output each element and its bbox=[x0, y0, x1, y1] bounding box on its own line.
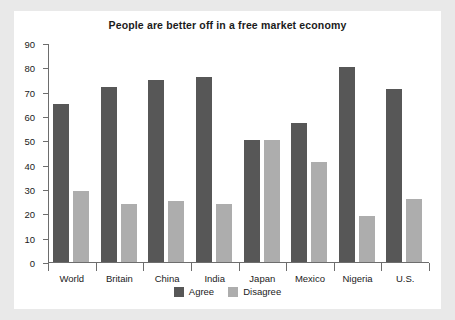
bar-disagree[interactable] bbox=[406, 199, 422, 262]
y-axis-tick-label: 90 bbox=[24, 39, 35, 50]
legend-swatch-icon bbox=[174, 287, 184, 297]
bar-group: Britain bbox=[96, 43, 144, 262]
bar-group: Nigeria bbox=[334, 43, 382, 262]
x-axis-category-label: U.S. bbox=[365, 273, 445, 284]
bar-agree[interactable] bbox=[53, 104, 69, 262]
y-axis-tick-label: 10 bbox=[24, 233, 35, 244]
y-axis-tick-label: 60 bbox=[24, 112, 35, 123]
bar-agree[interactable] bbox=[101, 87, 117, 262]
plot-area: 0102030405060708090 WorldBritainChinaInd… bbox=[48, 44, 429, 263]
chart-title: People are better off in a free market e… bbox=[14, 19, 441, 31]
bar-group: Japan bbox=[239, 43, 287, 262]
bar-group: India bbox=[191, 43, 239, 262]
x-axis-tick bbox=[239, 263, 240, 271]
bar-group: China bbox=[143, 43, 191, 262]
bar-group: World bbox=[48, 43, 96, 262]
x-axis-tick bbox=[191, 263, 192, 271]
x-axis-tick bbox=[96, 263, 97, 271]
bar-disagree[interactable] bbox=[359, 216, 375, 262]
legend-item[interactable]: Disagree bbox=[228, 286, 281, 297]
bar-disagree[interactable] bbox=[168, 201, 184, 262]
x-axis-tick bbox=[48, 263, 49, 271]
bar-agree[interactable] bbox=[339, 67, 355, 262]
y-axis-tick-label: 40 bbox=[24, 160, 35, 171]
y-axis-tick-label: 80 bbox=[24, 63, 35, 74]
bar-agree[interactable] bbox=[196, 77, 212, 262]
bar-disagree[interactable] bbox=[216, 204, 232, 262]
legend-label: Disagree bbox=[243, 286, 281, 297]
y-axis-tick-label: 20 bbox=[24, 209, 35, 220]
x-axis-tick bbox=[143, 263, 144, 271]
x-axis-tick bbox=[334, 263, 335, 271]
y-axis-tick-label: 70 bbox=[24, 87, 35, 98]
chart-legend: AgreeDisagree bbox=[14, 286, 441, 297]
legend-label: Agree bbox=[189, 286, 214, 297]
x-axis-tick bbox=[286, 263, 287, 271]
bar-disagree[interactable] bbox=[121, 204, 137, 262]
x-axis-tick bbox=[429, 263, 430, 271]
bar-agree[interactable] bbox=[148, 80, 164, 263]
legend-swatch-icon bbox=[228, 287, 238, 297]
y-axis-tick-label: 30 bbox=[24, 185, 35, 196]
bar-group: U.S. bbox=[381, 43, 429, 262]
bar-disagree[interactable] bbox=[311, 162, 327, 262]
bar-agree[interactable] bbox=[244, 140, 260, 262]
x-axis-tick bbox=[381, 263, 382, 271]
legend-item[interactable]: Agree bbox=[174, 286, 214, 297]
bar-group: Mexico bbox=[286, 43, 334, 262]
bar-agree[interactable] bbox=[291, 123, 307, 262]
bar-disagree[interactable] bbox=[73, 191, 89, 262]
chart-panel: People are better off in a free market e… bbox=[14, 11, 441, 309]
y-axis-tick-label: 50 bbox=[24, 136, 35, 147]
bar-disagree[interactable] bbox=[264, 140, 280, 262]
bar-agree[interactable] bbox=[386, 89, 402, 262]
y-axis-tick-label: 0 bbox=[30, 258, 35, 269]
